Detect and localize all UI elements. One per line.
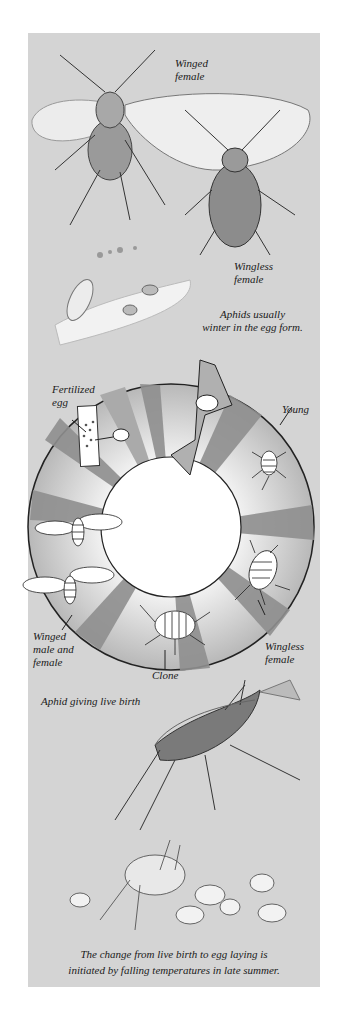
label-winged-female: Winged female <box>175 57 208 83</box>
aphid-colony-on-stem-illustration <box>55 246 190 345</box>
winged-female-illustration <box>32 50 310 225</box>
label-winged-male-female: Winged male and female <box>33 630 74 669</box>
live-birth-aphid-illustration <box>115 680 300 830</box>
label-winter-note: Aphids usually winter in the egg form. <box>185 308 320 334</box>
aphid-with-offspring-illustration <box>70 840 286 930</box>
label-wingless-female-cycle: Wingless female <box>265 640 304 666</box>
label-fertilized-egg: Fertilized egg <box>52 383 95 409</box>
aphid-illustration <box>0 0 338 1014</box>
label-clone: Clone <box>152 669 178 682</box>
label-young: Young <box>282 403 309 416</box>
caption: The change from live birth to egg laying… <box>28 946 320 978</box>
label-live-birth: Aphid giving live birth <box>41 695 140 708</box>
label-wingless-female-top: Wingless female <box>234 260 273 286</box>
